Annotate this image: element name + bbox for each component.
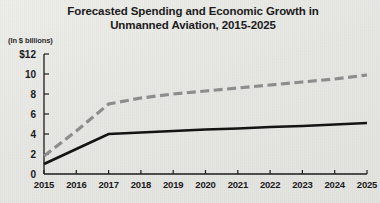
series-line-spending [44,123,367,164]
x-axis-tick-label: 2015 [34,179,55,190]
y-axis-tick-label: 6 [30,109,36,120]
x-axis-tick-label: 2024 [325,179,346,190]
x-axis-tick-label: 2021 [228,179,249,190]
x-axis-tick-label: 2022 [260,179,280,190]
y-axis-tick-labels: 0246810$12 [19,49,36,180]
x-axis-tick-label: 2018 [131,179,151,190]
x-axis-tick-label: 2019 [163,179,183,190]
series-line-economic-growth [44,75,367,156]
y-axis-tick-label: 0 [30,169,36,180]
chart-plot-area: 0246810$12 20152016201720182019202020212… [0,0,380,203]
y-axis-tick-label: 8 [30,89,36,100]
y-axis-tick-marks [44,54,49,154]
y-axis-tick-label: 10 [25,69,37,80]
x-axis-tick-label: 2016 [66,179,86,190]
y-axis-tick-label: 2 [30,149,36,160]
x-axis-tick-label: 2017 [98,179,118,190]
chart-figure: Forecasted Spending and Economic Growth … [0,0,380,203]
x-axis-tick-labels: 2015201620172018201920202021202220232024… [34,179,378,190]
x-axis-tick-label: 2023 [292,179,312,190]
y-axis-tick-label: $12 [19,49,36,60]
x-axis-tick-label: 2020 [195,179,215,190]
y-axis-tick-label: 4 [30,129,36,140]
x-axis-tick-label: 2025 [357,179,378,190]
